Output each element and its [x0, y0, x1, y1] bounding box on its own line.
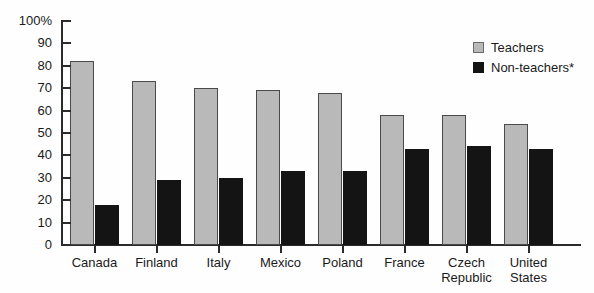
bar-teachers	[504, 124, 528, 245]
bar-group	[132, 21, 181, 245]
y-axis-tick-mark	[63, 154, 71, 156]
x-axis-tick-mark	[94, 246, 96, 253]
legend-item[interactable]: Non-teachers*	[473, 58, 574, 76]
y-axis-tick-mark	[63, 20, 71, 22]
y-axis-tick-mark	[63, 87, 71, 89]
bar-non-teachers	[157, 180, 181, 245]
chart-legend: TeachersNon-teachers*	[473, 38, 574, 78]
y-axis-tick-label: 80	[38, 57, 52, 74]
x-axis-tick-mark	[404, 246, 406, 253]
bar-teachers	[194, 88, 218, 245]
x-axis-tick-mark	[218, 246, 220, 253]
y-axis-tick-label: 70	[38, 79, 52, 96]
x-axis-tick-mark	[528, 246, 530, 253]
y-axis-tick-label: 40	[38, 146, 52, 163]
x-axis-label-france: France	[374, 255, 436, 270]
bar-non-teachers	[219, 178, 243, 245]
bar-group	[70, 21, 119, 245]
x-axis-tick-mark	[466, 246, 468, 253]
x-axis-label-canada: Canada	[64, 255, 126, 270]
y-axis-tick-mark	[63, 110, 71, 112]
y-axis-tick-mark	[63, 42, 71, 44]
y-axis-tick-label: 60	[38, 102, 52, 119]
x-axis-label-italy: Italy	[188, 255, 250, 270]
y-axis-tick-label: 20	[38, 191, 52, 208]
y-axis-tick-mark	[63, 65, 71, 67]
x-axis-tick-mark	[156, 246, 158, 253]
x-axis-label-czech-republic: Czech Republic	[436, 255, 498, 285]
bar-teachers	[70, 61, 94, 245]
legend-swatch-nonteachers-icon	[473, 62, 484, 73]
bar-non-teachers	[343, 171, 367, 245]
x-axis-label-poland: Poland	[312, 255, 374, 270]
y-axis-tick-mark	[63, 244, 71, 246]
bar-group	[380, 21, 429, 245]
y-axis-tick-label: 10	[38, 214, 52, 231]
x-axis-label-mexico: Mexico	[250, 255, 312, 270]
x-axis-tick-mark	[280, 246, 282, 253]
y-axis-tick-mark	[63, 199, 71, 201]
bar-non-teachers	[467, 146, 491, 245]
bar-group	[318, 21, 367, 245]
y-axis-tick-label: 0	[45, 236, 52, 253]
bar-teachers	[442, 115, 466, 245]
bar-group	[194, 21, 243, 245]
bar-teachers	[318, 93, 342, 245]
bar-non-teachers	[529, 149, 553, 245]
y-axis-tick-mark	[63, 177, 71, 179]
x-axis-label-finland: Finland	[126, 255, 188, 270]
y-axis-tick-mark	[63, 132, 71, 134]
y-axis-tick-label: 50	[38, 124, 52, 141]
x-axis-label-united-states: United States	[498, 255, 560, 285]
bar-chart: 0102030405060708090100% CanadaFinlandIta…	[0, 0, 594, 293]
bar-teachers	[380, 115, 404, 245]
y-axis-tick-mark	[63, 222, 71, 224]
legend-item[interactable]: Teachers	[473, 38, 574, 56]
bar-non-teachers	[95, 205, 119, 245]
bar-teachers	[256, 90, 280, 245]
legend-label: Teachers	[491, 40, 544, 55]
y-axis-tick-label: 100%	[19, 12, 52, 29]
y-axis-tick-label: 90	[38, 34, 52, 51]
y-axis-tick-label: 30	[38, 169, 52, 186]
legend-swatch-teachers-icon	[473, 42, 484, 53]
legend-label: Non-teachers*	[491, 60, 574, 75]
bar-non-teachers	[405, 149, 429, 245]
x-axis-tick-mark	[342, 246, 344, 253]
bar-group	[256, 21, 305, 245]
bar-teachers	[132, 81, 156, 245]
bar-non-teachers	[281, 171, 305, 245]
